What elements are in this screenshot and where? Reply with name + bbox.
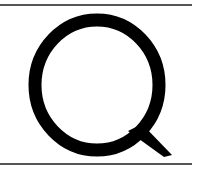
letter-q-glyph: [0, 0, 198, 169]
bottom-rule: [0, 163, 192, 165]
